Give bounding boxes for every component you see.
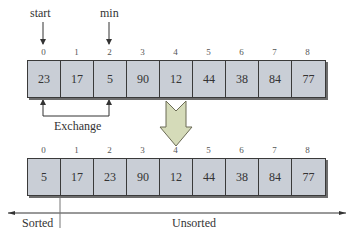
array-cell: 90 [127,61,160,97]
min-label: min [100,6,119,21]
array-cell: 38 [226,61,259,97]
index-label: 7 [258,145,291,155]
left-arrowhead-icon [8,211,15,215]
index-label: 1 [60,47,93,57]
array-cell: 12 [160,61,193,97]
index-label: 0 [27,145,60,155]
array-after: 5 17 23 90 12 44 38 84 77 [27,158,326,196]
index-label: 5 [192,145,225,155]
array-cell: 44 [193,61,226,97]
array-cell: 23 [94,159,127,195]
index-label: 6 [225,47,258,57]
selection-sort-diagram: start min 0 1 2 3 4 5 6 7 8 23 17 5 90 1… [0,0,354,239]
array-cell: 90 [127,159,160,195]
array-cell: 5 [94,61,127,97]
index-label: 3 [126,145,159,155]
start-label: start [30,6,51,21]
index-label: 7 [258,47,291,57]
index-label: 8 [291,47,324,57]
unsorted-label: Unsorted [172,216,216,231]
array-cell: 12 [160,159,193,195]
index-label: 3 [126,47,159,57]
index-label: 2 [93,47,126,57]
index-label: 2 [93,145,126,155]
index-label: 1 [60,145,93,155]
array-cell: 17 [61,61,94,97]
down-arrow-icon [160,101,192,146]
index-label: 4 [159,47,192,57]
array-cell: 44 [193,159,226,195]
array-before: 23 17 5 90 12 44 38 84 77 [27,60,326,98]
array-cell: 38 [226,159,259,195]
array-cell: 17 [61,159,94,195]
index-label: 6 [225,145,258,155]
array-cell: 77 [292,61,325,97]
index-label: 8 [291,145,324,155]
array-cell: 77 [292,159,325,195]
sorted-label: Sorted [22,216,53,231]
array-cell: 84 [259,61,292,97]
array-cell: 23 [28,61,61,97]
exchange-label: Exchange [54,119,101,134]
array-cell: 5 [28,159,61,195]
index-label: 5 [192,47,225,57]
array-cell: 84 [259,159,292,195]
index-label: 4 [159,145,192,155]
index-label: 0 [27,47,60,57]
right-arrowhead-icon [339,211,346,215]
